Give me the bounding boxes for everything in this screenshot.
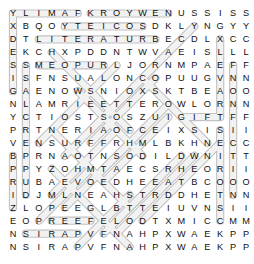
grid-cell[interactable]: D [139,216,146,226]
grid-cell[interactable]: I [38,242,41,252]
grid-cell[interactable]: O [126,216,133,226]
grid-cell[interactable]: F [230,60,236,70]
grid-cell[interactable]: I [38,8,41,18]
grid-cell[interactable]: R [36,151,43,161]
grid-cell[interactable]: B [114,203,120,213]
grid-cell[interactable]: Y [62,21,68,31]
grid-cell[interactable]: I [167,125,170,135]
grid-cell[interactable]: O [113,73,120,83]
grid-cell[interactable]: U [191,73,198,83]
grid-cell[interactable]: D [191,34,198,44]
grid-cell[interactable]: D [113,177,120,187]
grid-cell[interactable]: I [102,21,105,31]
grid-cell[interactable]: V [217,73,224,83]
grid-cell[interactable]: E [23,138,29,148]
grid-cell[interactable]: A [62,151,69,161]
grid-cell[interactable]: H [126,177,133,187]
grid-cell[interactable]: S [23,242,29,252]
grid-cell[interactable]: M [48,190,56,200]
grid-cell[interactable]: F [204,112,210,122]
grid-cell[interactable]: M [48,8,56,18]
grid-cell[interactable]: B [152,34,158,44]
grid-cell[interactable]: R [23,125,30,135]
grid-cell[interactable]: B [36,177,42,187]
grid-cell[interactable]: T [75,21,81,31]
grid-cell[interactable]: A [191,229,198,239]
grid-cell[interactable]: P [75,60,81,70]
grid-cell[interactable]: F [36,73,42,83]
grid-cell[interactable]: H [49,47,56,57]
grid-cell[interactable]: A [126,229,133,239]
grid-cell[interactable]: T [101,164,107,174]
grid-cell[interactable]: H [191,190,198,200]
grid-cell[interactable]: J [37,190,42,200]
grid-cell[interactable]: E [36,86,42,96]
grid-cell[interactable]: S [217,203,223,213]
grid-cell[interactable]: H [139,229,146,239]
grid-cell[interactable]: O [126,21,133,31]
grid-cell[interactable]: V [191,203,198,213]
grid-cell[interactable]: P [152,242,158,252]
grid-cell[interactable]: L [244,47,249,57]
grid-cell[interactable]: T [179,177,185,187]
grid-cell[interactable]: B [191,86,197,96]
grid-cell[interactable]: W [177,99,186,109]
grid-cell[interactable]: X [165,242,171,252]
grid-cell[interactable]: U [152,112,159,122]
grid-cell[interactable]: Z [140,112,146,122]
grid-cell[interactable]: I [219,8,222,18]
grid-cell[interactable]: R [49,216,56,226]
grid-cell[interactable]: E [10,47,16,57]
grid-cell[interactable]: R [87,34,94,44]
grid-cell[interactable]: F [243,112,249,122]
grid-cell[interactable]: T [36,125,42,135]
grid-cell[interactable]: E [139,177,145,187]
grid-cell[interactable]: O [230,177,237,187]
grid-cell[interactable]: R [217,99,224,109]
grid-cell[interactable]: O [242,86,249,96]
grid-cell[interactable]: E [75,34,81,44]
grid-cell[interactable]: E [126,164,132,174]
grid-cell[interactable]: W [73,86,82,96]
grid-cell[interactable]: R [10,177,17,187]
grid-cell[interactable]: S [204,8,210,18]
grid-cell[interactable]: X [10,21,16,31]
grid-cell[interactable]: C [23,112,30,122]
grid-cell[interactable]: T [243,151,249,161]
grid-cell[interactable]: A [126,242,133,252]
grid-cell[interactable]: K [217,242,224,252]
grid-cell[interactable]: E [152,177,158,187]
grid-cell[interactable]: K [165,86,172,96]
grid-cell[interactable]: R [152,99,159,109]
grid-cell[interactable]: R [49,229,56,239]
grid-cell[interactable]: E [178,47,184,57]
grid-cell[interactable]: G [204,73,211,83]
grid-cell[interactable]: I [12,190,15,200]
grid-cell[interactable]: O [22,216,29,226]
grid-cell[interactable]: E [10,216,16,226]
grid-cell[interactable]: C [204,216,211,226]
grid-cell[interactable]: T [23,34,29,44]
grid-cell[interactable]: S [126,190,132,200]
grid-cell[interactable]: S [10,60,16,70]
grid-cell[interactable]: E [75,216,81,226]
grid-cell[interactable]: Z [49,164,55,174]
grid-cell[interactable]: T [153,216,159,226]
grid-cell[interactable]: L [153,138,158,148]
grid-cell[interactable]: E [204,190,210,200]
grid-cell[interactable]: X [139,86,145,96]
grid-cell[interactable]: E [191,164,197,174]
grid-cell[interactable]: K [23,47,30,57]
grid-cell[interactable]: T [230,151,236,161]
grid-cell[interactable]: H [113,190,120,200]
grid-cell[interactable]: P [243,242,249,252]
grid-cell[interactable]: M [242,216,250,226]
grid-cell[interactable]: L [62,190,67,200]
grid-cell[interactable]: U [178,8,185,18]
grid-cell[interactable]: C [243,138,250,148]
grid-cell[interactable]: L [23,203,28,213]
grid-cell[interactable]: N [126,73,133,83]
grid-cell[interactable]: L [114,216,119,226]
grid-cell[interactable]: A [217,86,224,96]
grid-cell[interactable]: V [75,177,82,187]
